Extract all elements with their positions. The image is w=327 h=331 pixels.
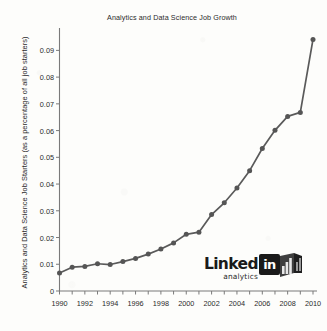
analytics-subtitle: analytics [196, 272, 258, 281]
linkedin-in-badge: in [259, 254, 280, 275]
data-point-markers [57, 37, 316, 276]
analytics-cube-icon [280, 253, 302, 277]
linkedin-analytics-watermark: Linked analytics in [196, 253, 302, 286]
linkedin-wordmark: Linked [196, 255, 258, 273]
chart-container: Analytics and Data Science Job Growth An… [0, 0, 327, 331]
linkedin-in-label: in [259, 254, 280, 275]
data-series-line [60, 39, 314, 273]
